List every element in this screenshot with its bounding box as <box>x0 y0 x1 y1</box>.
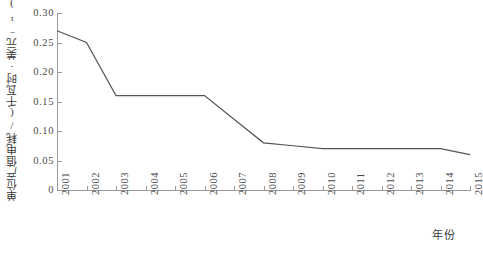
x-tick-label: 2015 <box>474 172 483 195</box>
x-tick-label: 2011 <box>356 172 367 195</box>
x-tick-label: 2008 <box>268 172 279 195</box>
chart-tick-marks <box>58 14 471 191</box>
data-series-line <box>57 31 470 155</box>
chart-container: 单位产值电耗/(千瓦时·美元⁻¹) 00.050.100.150.200.250… <box>0 0 483 253</box>
x-tick-label: 2010 <box>327 172 338 195</box>
x-tick-label: 2005 <box>179 172 190 195</box>
chart-axes <box>58 13 471 191</box>
x-tick-label: 2003 <box>120 172 131 195</box>
x-tick-label: 2007 <box>238 172 249 195</box>
x-tick-label: 2006 <box>209 172 220 195</box>
x-tick-label: 2014 <box>445 172 456 195</box>
x-tick-label: 2004 <box>150 172 161 195</box>
x-tick-label: 2012 <box>386 172 397 195</box>
x-axis-title: 年份 <box>432 230 456 241</box>
x-tick-label: 2013 <box>415 172 426 195</box>
x-tick-label: 2001 <box>61 172 72 195</box>
x-tick-label: 2002 <box>91 172 102 195</box>
chart-plot-area <box>0 0 483 253</box>
x-tick-label: 2009 <box>297 172 308 195</box>
